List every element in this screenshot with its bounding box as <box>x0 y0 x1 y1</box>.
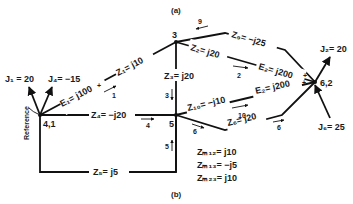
branch-2-number: 2 <box>237 72 241 79</box>
node-3 <box>174 40 178 44</box>
node-label-3: 3 <box>172 30 177 40</box>
j1-label: J₁ = 20 <box>5 74 34 84</box>
j2-label: J₂= 20 <box>320 44 347 54</box>
z3-label: Z₃= j20 <box>164 71 194 81</box>
e2-upper-polarity: + <box>303 72 307 79</box>
branch-10-direction-arrow <box>232 105 248 108</box>
caption-a: (a) <box>171 6 181 15</box>
node-label-5: 5 <box>169 119 174 129</box>
branch-3-number: 3 <box>165 92 169 99</box>
branch-10-number: 10 <box>238 112 246 119</box>
branch-5-wire <box>40 115 176 172</box>
z4-label: Z₄= −j20 <box>91 110 126 120</box>
j4-label: J₄= −15 <box>48 74 80 84</box>
node-4-1 <box>38 113 42 117</box>
j6-arrow <box>315 85 330 118</box>
node-5 <box>174 113 178 117</box>
branch-9-direction-arrow <box>196 26 208 29</box>
branch-6-number-left: 6 <box>193 128 197 135</box>
branch-2-direction-arrow <box>233 66 248 68</box>
node-6-2 <box>313 80 317 84</box>
branch-5-number: 5 <box>165 143 169 150</box>
mutual-z-m12: Zₘ₁₂= j10 <box>197 147 237 157</box>
z5-label: Z₅= j5 <box>93 167 118 177</box>
branch-9-number: 9 <box>198 18 202 25</box>
j6-label: J₆= 25 <box>318 122 345 132</box>
mutual-z-m13: Zₘ₁₃= −j5 <box>197 160 237 170</box>
mutual-z-m23: Zₘ₂₃= j10 <box>197 173 237 183</box>
j1-arrow <box>29 87 40 115</box>
reference-label: Reference <box>23 106 30 140</box>
branch-6-number-right: 6 <box>277 124 281 131</box>
branch-4-number: 4 <box>146 122 150 129</box>
branch-6-direction-arrow-right <box>273 120 284 122</box>
branch-1-number: 1 <box>112 92 116 99</box>
node-label-6-2: 6,2 <box>320 78 333 88</box>
caption-b: (b) <box>171 190 182 199</box>
e2-lower-polarity: + <box>302 79 306 86</box>
node-label-4-1: 4,1 <box>43 119 56 129</box>
e1-polarity: + <box>97 82 101 89</box>
network-diagram: (a) (b) 4,1 3 5 6,2 Reference J₁ = 20 J₄… <box>0 0 353 204</box>
